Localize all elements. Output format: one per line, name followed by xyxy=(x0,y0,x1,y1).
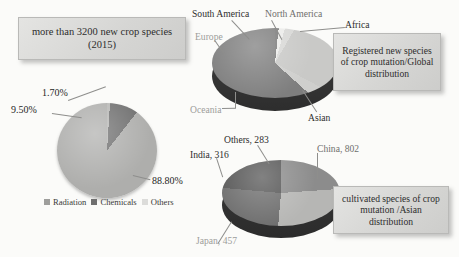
label-chemicals-percent: 9.50% xyxy=(11,104,37,115)
label-asian: Asian xyxy=(308,112,330,123)
legend-item-others: Others xyxy=(142,197,174,207)
legend-swatch-others-icon xyxy=(142,199,148,205)
legend-swatch-radiation-icon xyxy=(44,199,50,205)
pie-gloss-overlay-global xyxy=(212,28,338,98)
callout-asian-distribution: cultivated species of crop mutation /Asi… xyxy=(333,186,449,234)
label-south-america: South America xyxy=(192,8,249,19)
legend-swatch-chemicals-icon xyxy=(91,199,97,205)
figure-canvas: more than 3200 new crop species (2015) 1… xyxy=(0,0,459,257)
legend-item-chemicals: Chemicals xyxy=(91,197,136,207)
callout-new-crop-species-text: more than 3200 new crop species (2015) xyxy=(25,26,179,51)
legend-label-radiation: Radiation xyxy=(53,197,86,207)
label-africa: Africa xyxy=(345,19,370,30)
leader-line-oceania-vert xyxy=(235,92,236,108)
chart-induction-method-pie xyxy=(57,103,162,201)
pie-slices-induction xyxy=(57,103,157,198)
callout-new-crop-species: more than 3200 new crop species (2015) xyxy=(18,17,186,60)
pie-gloss-overlay-asian xyxy=(222,160,340,226)
leader-line-china-count xyxy=(317,153,318,179)
legend-label-chemicals: Chemicals xyxy=(100,197,136,207)
legend-item-radiation: Radiation xyxy=(44,197,86,207)
label-others-count: Others, 283 xyxy=(224,134,269,145)
label-japan-count: Japan, 457 xyxy=(196,235,237,246)
leader-line-others-pct xyxy=(68,86,106,101)
label-north-america: North America xyxy=(265,8,322,19)
callout-global-distribution: Registered new species of crop mutation/… xyxy=(333,33,441,91)
chart-asian-distribution-pie xyxy=(222,160,342,240)
label-others-percent: 1.70% xyxy=(42,87,68,98)
label-india-count: India, 316 xyxy=(190,149,229,160)
label-europe: Europe xyxy=(195,31,223,42)
legend-induction-method: Radiation Chemicals Others xyxy=(44,197,174,207)
label-china-count: China, 802 xyxy=(317,143,359,154)
callout-asian-distribution-text: cultivated species of crop mutation /Asi… xyxy=(337,193,445,227)
label-radiation-percent: 88.80% xyxy=(152,175,183,186)
callout-global-distribution-text: Registered new species of crop mutation/… xyxy=(338,45,436,79)
label-oceania: Oceania xyxy=(190,104,221,115)
legend-label-others: Others xyxy=(151,197,174,207)
chart-global-distribution-pie xyxy=(212,28,340,114)
